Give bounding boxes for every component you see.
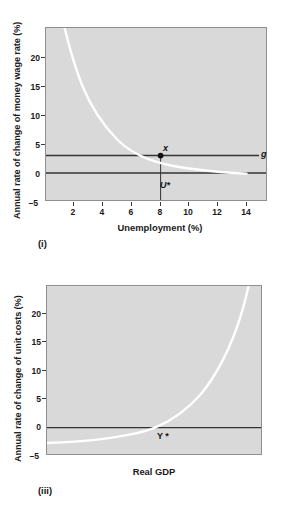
panel-i-ytick-10: 10 [18,111,40,121]
panel-i-xtick-10: 10 [180,207,196,217]
panel-i-ytick-20: 20 [18,53,40,63]
panel-i-svg [46,28,267,201]
panel-i-tickmark-x-10 [188,202,189,206]
panel-iii-ytick-0: 0 [19,422,41,432]
panel-i-xtick-6: 6 [123,207,139,217]
panel-i-xtick-8: 8 [152,207,168,217]
panel-i-phillips-curve [65,28,247,174]
panel-iii-ytick-5: 5 [19,394,41,404]
panel-i-tickmark-x-12 [217,202,218,206]
panel-iii-y-axis-label: Annual rate of change of unit costs (%) [13,295,23,462]
panel-i-tickmark-x-6 [131,202,132,206]
panel-iii-ytick-15: 15 [19,337,41,347]
panel-i-x-axis-label: Unemployment (%) [95,222,225,233]
panel-iii-unit-cost-curve [47,286,249,443]
panel-i-plot-area [45,27,267,201]
panel-iii-ytick-20: 20 [19,309,41,319]
panel-i-xtick-2: 2 [65,207,81,217]
panel-iii-y-star-label: Y * [157,431,169,441]
panel-iii-plot-area [46,285,262,455]
panel-i-xtick-12: 12 [209,207,225,217]
panel-iii-svg [47,286,262,455]
panel-i-tag: (i) [38,238,47,249]
panel-i-ytick-15: 15 [18,82,40,92]
panel-i-tickmark-x-8 [160,202,161,206]
panel-i-tickmark-x-14 [246,202,247,206]
panel-i-ytick-neg5: –5 [16,198,38,208]
panel-iii: Annual rate of change of unit costs (%) … [0,255,291,509]
panel-iii-x-axis-label: Real GDP [109,466,199,477]
panel-i-point-x [158,153,164,159]
panel-i-xtick-14: 14 [238,207,254,217]
panel-i-point-x-label: x [163,143,168,153]
panel-i-tickmark-x-2 [73,202,74,206]
panel-iii-ytick-neg5: –5 [17,451,39,461]
panel-iii-ytick-10: 10 [19,366,41,376]
panel-i-tickmark-x-4 [102,202,103,206]
panel-iii-tag: (iii) [38,485,52,496]
panel-i-g-line-label: g [261,149,267,159]
panel-i-ytick-0: 0 [18,169,40,179]
economics-figure: Annual rate of change of money wage rate… [0,0,291,509]
panel-i-xtick-4: 4 [94,207,110,217]
panel-i: Annual rate of change of money wage rate… [0,0,291,255]
panel-i-ytick-5: 5 [18,140,40,150]
panel-i-u-star-label: U* [160,180,170,190]
